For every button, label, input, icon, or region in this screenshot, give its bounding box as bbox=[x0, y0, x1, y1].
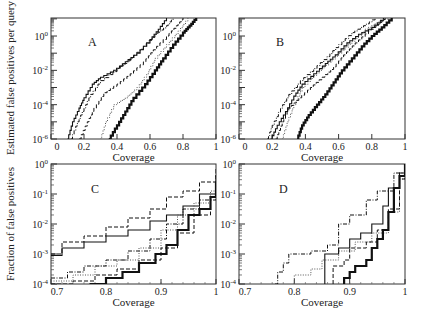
x-tick-label: 0.7 bbox=[51, 286, 64, 297]
figure: Estimated false positives per query Frac… bbox=[0, 0, 425, 322]
series-line bbox=[271, 18, 384, 139]
tick-label: 100 bbox=[223, 30, 237, 42]
tick-label: 10-4 bbox=[220, 99, 236, 111]
series-line bbox=[51, 182, 216, 284]
x-tick-label: 0.8 bbox=[100, 286, 113, 297]
panel-label: D bbox=[279, 182, 288, 196]
tick-label: 10-4 bbox=[32, 278, 48, 290]
x-tick-label: 0.2 bbox=[78, 141, 91, 152]
plot-frame bbox=[51, 164, 216, 284]
tick-label: 10-3 bbox=[32, 248, 48, 260]
tick-label: 10-2 bbox=[32, 64, 48, 76]
tick-label: 10-4 bbox=[220, 278, 236, 290]
series-line bbox=[51, 173, 216, 278]
tick-label: 10-6 bbox=[220, 133, 236, 145]
tick-label: 100 bbox=[35, 30, 49, 42]
tick-label: 10-1 bbox=[32, 188, 48, 200]
tick-label: 100 bbox=[35, 158, 49, 170]
panel-b: 10-610-410-210000.20.40.60.81CoverageB bbox=[220, 18, 407, 163]
tick-label: 10-3 bbox=[220, 248, 236, 260]
panel-label: A bbox=[88, 35, 97, 49]
x-axis-title: Coverage bbox=[301, 296, 343, 308]
x-tick-label: 0.8 bbox=[288, 286, 301, 297]
plot-frame bbox=[51, 18, 216, 139]
x-tick-label: 0.7 bbox=[239, 286, 252, 297]
x-tick-label: 1 bbox=[403, 141, 408, 152]
tick-label: 100 bbox=[223, 158, 237, 170]
x-axis-title: Coverage bbox=[301, 151, 343, 163]
panel-c: 10-410-310-210-11000.70.80.91CoverageC bbox=[32, 158, 218, 308]
x-axis-title: Coverage bbox=[112, 151, 154, 163]
x-tick-label: 0 bbox=[243, 141, 248, 152]
x-axis-title: Coverage bbox=[112, 296, 154, 308]
panel-label: B bbox=[276, 35, 284, 49]
x-tick-label: 0 bbox=[55, 141, 60, 152]
panel-label: C bbox=[91, 182, 99, 196]
x-tick-label: 0.2 bbox=[266, 141, 279, 152]
series-line bbox=[51, 167, 216, 254]
series-line bbox=[276, 18, 386, 139]
x-tick-label: 1 bbox=[214, 141, 219, 152]
series-line bbox=[90, 182, 217, 284]
panel-d: 10-410-310-210-11000.70.80.91CoverageD bbox=[220, 158, 407, 308]
tick-label: 10-2 bbox=[220, 218, 236, 230]
x-tick-label: 1 bbox=[214, 286, 219, 297]
x-tick-label: 0.9 bbox=[343, 286, 356, 297]
y-axis-title-top: Estimated false positives per query bbox=[4, 1, 16, 155]
tick-label: 10-6 bbox=[32, 133, 48, 145]
tick-label: 10-4 bbox=[32, 99, 48, 111]
series-line bbox=[68, 18, 167, 139]
x-tick-label: 0.8 bbox=[177, 141, 190, 152]
plot-frame bbox=[239, 18, 405, 139]
x-tick-label: 1 bbox=[403, 286, 408, 297]
series-line bbox=[101, 18, 188, 139]
x-tick-label: 0.9 bbox=[155, 286, 168, 297]
tick-label: 10-2 bbox=[32, 218, 48, 230]
series-line bbox=[51, 176, 216, 281]
x-tick-label: 0.8 bbox=[366, 141, 379, 152]
y-axis-title-bottom: Fraction of false positives bbox=[4, 167, 16, 281]
tick-label: 10-1 bbox=[220, 188, 236, 200]
panel-a: 10-610-410-210000.20.40.60.81CoverageA bbox=[32, 18, 218, 163]
tick-label: 10-2 bbox=[220, 64, 236, 76]
series-line bbox=[109, 18, 196, 139]
